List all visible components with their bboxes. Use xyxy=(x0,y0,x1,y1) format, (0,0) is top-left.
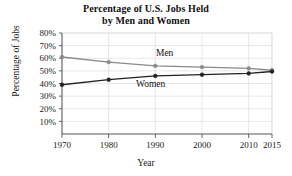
data-point-women xyxy=(60,83,64,87)
data-point-women xyxy=(153,74,157,78)
series-annotations: MenWomen xyxy=(136,48,174,90)
data-point-women xyxy=(270,70,274,74)
data-point-women xyxy=(200,73,204,77)
chart-plot-area: 10%20%30%40%50%60%70%80% 197019801990200… xyxy=(0,0,292,176)
y-tick-label: 70% xyxy=(40,41,57,51)
data-point-men xyxy=(247,66,251,70)
data-point-women xyxy=(247,72,251,76)
y-tick-label: 40% xyxy=(40,79,57,89)
series-label-women: Women xyxy=(136,79,166,89)
series-line-men xyxy=(62,57,272,70)
y-tick-label: 60% xyxy=(40,53,57,63)
y-tick-label: 30% xyxy=(40,91,57,101)
y-gridlines xyxy=(62,33,272,121)
data-point-men xyxy=(60,55,64,59)
data-point-men xyxy=(200,65,204,69)
data-point-men xyxy=(153,64,157,68)
x-tick-label: 2015 xyxy=(263,140,282,150)
x-axis-ticks xyxy=(62,134,272,138)
x-tick-label: 1990 xyxy=(146,140,165,150)
series-line-women xyxy=(62,72,272,85)
series-label-men: Men xyxy=(156,48,174,58)
y-axis-tick-labels: 10%20%30%40%50%60%70%80% xyxy=(40,28,57,126)
y-tick-label: 10% xyxy=(40,117,57,127)
y-tick-label: 20% xyxy=(40,104,57,114)
data-point-women xyxy=(107,78,111,82)
x-tick-label: 1980 xyxy=(100,140,119,150)
data-point-men xyxy=(107,60,111,64)
x-tick-label: 2010 xyxy=(240,140,259,150)
x-tick-label: 2000 xyxy=(193,140,212,150)
x-tick-label: 1970 xyxy=(53,140,72,150)
y-tick-label: 50% xyxy=(40,66,57,76)
y-tick-label: 80% xyxy=(40,28,57,38)
chart-container: Percentage of U.S. Jobs Held by Men and … xyxy=(0,0,292,176)
x-axis-tick-labels: 197019801990200020102015 xyxy=(53,140,282,150)
